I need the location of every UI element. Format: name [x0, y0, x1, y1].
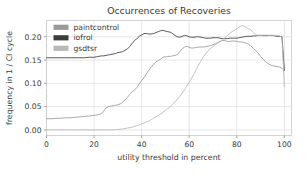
legend-label-paintcontrol: paintcontrol — [74, 23, 120, 32]
x-tick-label: 80 — [232, 140, 242, 149]
legend-label-gsdtsr: gsdtsr — [74, 44, 99, 53]
legend-swatch-paintcontrol — [54, 25, 69, 30]
legend-swatch-gsdtsr — [54, 46, 69, 51]
legend-swatch-iofrol — [54, 35, 69, 40]
y-tick-label: 0.10 — [25, 79, 42, 88]
x-tick-label: 40 — [137, 140, 147, 149]
legend-label-iofrol: iofrol — [74, 33, 93, 42]
y-tick-label: 0.05 — [25, 102, 42, 111]
chart-figure: 0204060801000.000.050.100.150.20 Occurre… — [0, 0, 308, 173]
y-tick-label: 0.15 — [25, 56, 42, 65]
x-tick-label: 20 — [89, 140, 99, 149]
y-tick-label: 0.00 — [25, 126, 42, 135]
x-tick-label: 100 — [277, 140, 292, 149]
chart-canvas: 0204060801000.000.050.100.150.20 Occurre… — [0, 0, 308, 173]
chart-title: Occurrences of Recoveries — [107, 5, 231, 16]
y-axis-label: frequency in 1 / CI cycle — [5, 31, 14, 125]
x-axis-label: utility threshold in percent — [117, 153, 220, 162]
x-tick-label: 60 — [184, 140, 194, 149]
x-tick-label: 0 — [44, 140, 49, 149]
y-tick-label: 0.20 — [25, 33, 42, 42]
